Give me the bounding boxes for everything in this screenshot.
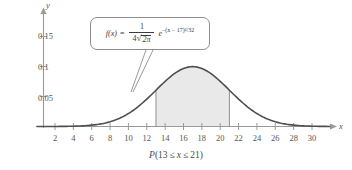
formula-callout-box: f(x) = 1 4√2π e−(x − 17)²/32 xyxy=(90,17,210,50)
x-axis-label: x xyxy=(339,122,343,131)
x-tick-label-16: 16 xyxy=(179,134,188,143)
formula-numerator: 1 xyxy=(137,23,147,32)
y-tick-label-0.1: 0.1 xyxy=(38,63,49,72)
y-axis-label: y xyxy=(46,1,50,10)
y-tick-label-0.15: 0.15 xyxy=(38,32,53,41)
caption-close-paren: ) xyxy=(200,150,203,160)
caption-lower-bound: 13 xyxy=(158,150,168,160)
caption-le-2: ≤ xyxy=(183,150,188,160)
callout-leader-line-1 xyxy=(131,50,146,92)
x-tick-label-14: 14 xyxy=(161,134,170,143)
x-tick-label-8: 8 xyxy=(108,134,112,143)
formula-function-name: f(x) xyxy=(106,29,117,38)
probability-caption: P(13≤x≤21) xyxy=(149,150,203,160)
formula-radicand: 2π xyxy=(141,35,151,44)
caption-variable: x xyxy=(177,150,181,160)
x-axis-arrow-icon xyxy=(330,123,337,129)
x-tick-label-10: 10 xyxy=(124,134,133,143)
caption-le-1: ≤ xyxy=(170,150,175,160)
callout-leader-line-2 xyxy=(133,50,153,92)
formula-fraction: 1 4√2π xyxy=(129,23,154,44)
shaded-probability-region xyxy=(156,67,229,127)
formula-denominator: 4√2π xyxy=(129,32,154,44)
density-formula-text: f(x) = 1 4√2π e−(x − 17)²/32 xyxy=(91,18,209,49)
formula-exponent: −(x − 17)²/32 xyxy=(162,27,194,33)
y-tick-label-0.05: 0.05 xyxy=(38,94,53,103)
x-tick-label-26: 26 xyxy=(271,134,280,143)
caption-upper-bound: 21 xyxy=(190,150,200,160)
x-tick-label-30: 30 xyxy=(308,134,317,143)
x-tick-label-20: 20 xyxy=(216,134,225,143)
x-tick-label-6: 6 xyxy=(90,134,94,143)
x-tick-label-24: 24 xyxy=(253,134,262,143)
x-tick-label-28: 28 xyxy=(289,134,298,143)
x-tick-label-22: 22 xyxy=(234,134,243,143)
x-tick-label-12: 12 xyxy=(143,134,152,143)
normal-distribution-figure: y x 0.15 0.1 0.05 2468101214161820222426… xyxy=(0,0,352,170)
x-tick-label-4: 4 xyxy=(71,134,75,143)
formula-equals: = xyxy=(120,29,125,38)
x-tick-label-2: 2 xyxy=(53,134,57,143)
formula-exponential: e−(x − 17)²/32 xyxy=(158,29,194,38)
x-tick-label-18: 18 xyxy=(198,134,207,143)
